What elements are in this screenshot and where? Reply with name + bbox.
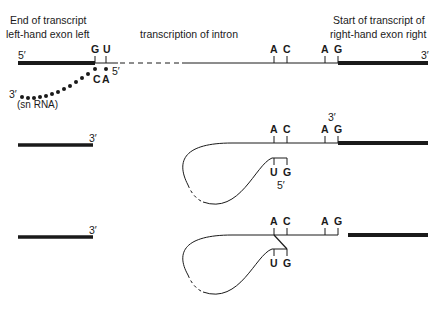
base-U: U bbox=[270, 167, 278, 178]
base-C: C bbox=[283, 44, 291, 55]
base-A: A bbox=[321, 216, 329, 227]
base-A: A bbox=[270, 216, 278, 227]
base-G: G bbox=[334, 124, 342, 135]
right-exon-label-line1: Start of transcript of bbox=[333, 14, 425, 26]
three-prime-label: 3′ bbox=[89, 225, 97, 236]
three-prime-label: 3′ bbox=[421, 50, 429, 61]
right-exon-label-line2: right-hand exon right bbox=[330, 28, 426, 40]
three-prime-label: 3′ bbox=[328, 112, 336, 123]
intron-label: transcription of intron bbox=[140, 28, 238, 40]
base-G: G bbox=[334, 216, 342, 227]
three-prime-label: 3′ bbox=[89, 133, 97, 144]
base-U: U bbox=[103, 44, 111, 55]
left-exon-label-line1: End of transcript bbox=[10, 14, 86, 26]
left-exon-label-line2: left-hand exon left bbox=[6, 28, 89, 40]
base-A: A bbox=[102, 74, 110, 85]
base-A: A bbox=[270, 124, 278, 135]
base-G: G bbox=[91, 44, 99, 55]
base-A: A bbox=[270, 44, 278, 55]
five-prime-label: 5′ bbox=[18, 50, 26, 61]
snrna-label: (sn RNA) bbox=[17, 99, 58, 111]
base-A: A bbox=[321, 124, 329, 135]
base-C: C bbox=[283, 124, 291, 135]
five-prime-label: 5′ bbox=[112, 66, 120, 77]
base-G: G bbox=[283, 258, 291, 269]
three-prime-label: 3′ bbox=[9, 89, 17, 100]
base-A: A bbox=[321, 44, 329, 55]
base-C: C bbox=[283, 216, 291, 227]
five-prime-label: 5′ bbox=[277, 180, 285, 191]
base-C: C bbox=[93, 74, 101, 85]
base-G: G bbox=[334, 44, 342, 55]
base-U: U bbox=[270, 258, 278, 269]
splicing-diagram bbox=[0, 0, 445, 309]
base-G: G bbox=[283, 167, 291, 178]
